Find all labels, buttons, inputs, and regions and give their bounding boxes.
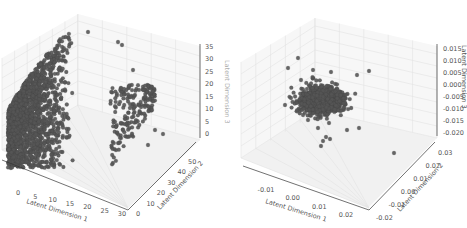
tick-label: 0.00: [285, 194, 299, 202]
tick-label: -0.01: [258, 186, 275, 194]
z-axis-label: Latent Dimension 3: [223, 60, 231, 124]
plot-canvas-right: -0.010.000.010.02-0.02-0.010.000.010.020…: [233, 0, 467, 228]
tick-label: 25: [205, 68, 213, 76]
tick-label: 0: [205, 130, 209, 138]
tick-label: -0.020: [443, 129, 464, 137]
tick-label: 15: [205, 93, 213, 101]
scatter3d-plot-right: -0.010.000.010.02-0.02-0.010.000.010.020…: [233, 0, 467, 228]
tick-label: 20: [205, 80, 213, 88]
plot-canvas-left: 0510152025300102030405005101520253035 La…: [0, 0, 233, 228]
tick-label: 0.01: [312, 203, 326, 211]
tick-label: 10: [146, 200, 154, 208]
tick-label: 30: [205, 55, 213, 63]
x-axis-label: Latent Dimension 1: [25, 197, 88, 223]
tick-label: 25: [101, 207, 109, 215]
tick-label: 30: [118, 210, 126, 218]
tick-label: 0.015: [443, 45, 462, 53]
tick-label: 0.03: [438, 149, 452, 157]
tick-label: 15: [66, 200, 74, 208]
tick-label: 10: [205, 105, 213, 113]
tick-label: -0.015: [443, 117, 464, 125]
tick-label: 0: [136, 210, 140, 218]
tick-label: 0: [16, 189, 20, 197]
tick-label: 20: [83, 203, 91, 211]
scatter3d-plot-left: 0510152025300102030405005101520253035 La…: [0, 0, 233, 228]
tick-label: 0.02: [339, 211, 353, 219]
tick-label: 5: [205, 118, 209, 126]
tick-label: -0.02: [376, 214, 393, 222]
z-axis-label: Latent Dimension 3: [460, 45, 467, 109]
tick-label: 0.000: [443, 81, 462, 89]
tick-label: 0.010: [443, 57, 462, 65]
tick-label: 35: [205, 43, 213, 51]
tick-label: 10: [49, 196, 57, 204]
tick-label: 0.005: [443, 69, 462, 77]
